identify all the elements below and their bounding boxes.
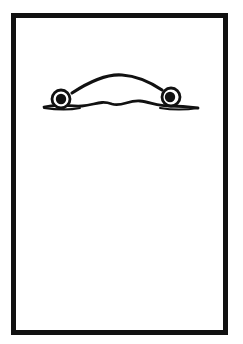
left-eye-icon: [52, 90, 70, 108]
frog-drawing: [0, 0, 243, 344]
head-arch: [72, 75, 162, 93]
right-eye-icon: [162, 88, 180, 106]
